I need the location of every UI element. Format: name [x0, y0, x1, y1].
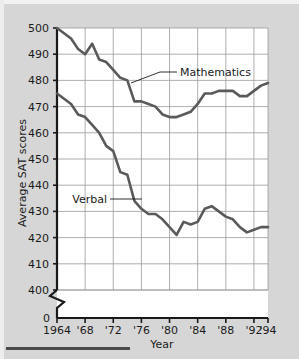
x-tick-label: '84 — [189, 324, 206, 337]
x-tick-labels: 1964'68'72'76'80'84'88'92'94 — [43, 324, 277, 337]
x-tick-label: '76 — [133, 324, 150, 337]
y-tick-label: 410 — [28, 258, 49, 271]
y-tick-label: 430 — [28, 205, 49, 218]
y-tick-labels: 500490480470460450440430420410400 — [28, 22, 49, 297]
series-label-mathematics: Mathematics — [180, 66, 251, 79]
y-tick-label: 500 — [28, 22, 49, 35]
y-tick-label: 440 — [28, 179, 49, 192]
y-tick-label: 460 — [28, 127, 49, 140]
y-tick-label: 470 — [28, 101, 49, 114]
line-chart: 500490480470460450440430420410400 1964'6… — [0, 0, 299, 359]
y-tick-label: 420 — [28, 232, 49, 245]
y-axis-title: Average SAT scores — [16, 119, 29, 227]
x-tick-label: 1964 — [43, 324, 71, 337]
sat-scores-figure: 500490480470460450440430420410400 1964'6… — [0, 0, 299, 359]
y-tick-label: 490 — [28, 48, 49, 61]
y-tick-label-zero: 0 — [43, 312, 50, 325]
bottom-decoration-rule — [6, 347, 130, 350]
x-tick-label: '72 — [105, 324, 122, 337]
x-tick-label: '94 — [259, 324, 276, 337]
y-tick-label: 450 — [28, 153, 49, 166]
y-tick-label: 480 — [28, 74, 49, 87]
y-tick-label: 400 — [28, 284, 49, 297]
x-tick-label: '68 — [77, 324, 94, 337]
series-label-verbal: Verbal — [72, 193, 107, 206]
x-axis-title: Year — [149, 338, 174, 351]
x-tick-label: '88 — [217, 324, 234, 337]
x-tick-label: '80 — [161, 324, 178, 337]
